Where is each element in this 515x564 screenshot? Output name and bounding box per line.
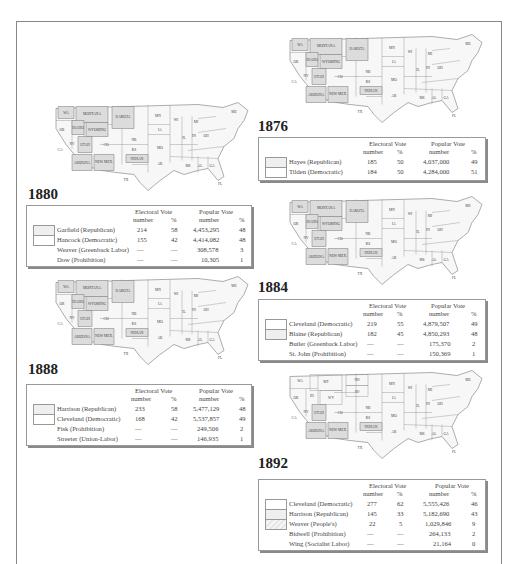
svg-text:MONTANA: MONTANA — [317, 44, 335, 48]
ev-number-header: number — [131, 395, 151, 402]
svg-text:IA: IA — [392, 222, 396, 226]
svg-text:NV: NV — [303, 74, 309, 78]
svg-text:AR: AR — [158, 162, 164, 166]
svg-text:NV: NV — [69, 316, 75, 320]
map-1888: WAMONTANADAKOTA IDAHOWYOMINGUTAH ARIZONA… — [48, 270, 253, 375]
svg-text:MS: MS — [419, 96, 424, 100]
svg-text:INDIAN: INDIAN — [365, 425, 378, 429]
svg-text:FL: FL — [218, 356, 222, 360]
svg-text:WA: WA — [63, 285, 69, 289]
svg-text:FL: FL — [452, 450, 456, 454]
svg-text:IN: IN — [192, 134, 196, 138]
svg-text:AL: AL — [432, 258, 437, 262]
svg-text:AR: AR — [392, 430, 398, 434]
svg-text:OR: OR — [60, 302, 66, 306]
ev-percent-header: % — [397, 148, 403, 155]
popular-vote-header: Popular Vote — [199, 208, 233, 215]
svg-text:IN: IN — [426, 66, 430, 70]
svg-text:WI: WI — [408, 50, 413, 54]
svg-text:IL: IL — [182, 310, 185, 314]
svg-text:OR: OR — [294, 222, 300, 226]
svg-text:MO: MO — [391, 240, 397, 244]
results-table-1876: Electoral Vote Popular Vote number % num… — [258, 137, 486, 181]
svg-text:IDAHO: IDAHO — [306, 58, 318, 62]
svg-text:FL: FL — [452, 276, 456, 280]
year-label-1892: 1892 — [258, 455, 288, 472]
table-row: Weaver (Greenback Labor) — — 308,578 3 — [27, 245, 251, 255]
table-row: Hayes (Republican) 185 50 4,037,000 49 — [259, 157, 485, 167]
year-label-1876: 1876 — [258, 118, 288, 135]
svg-text:IDAHO: IDAHO — [306, 220, 318, 224]
svg-text:ME: ME — [465, 42, 471, 46]
results-table-1880: Electoral Vote Popular Vote number % num… — [26, 205, 252, 267]
svg-text:NEW MEX.: NEW MEX. — [329, 92, 347, 96]
svg-text:UTAH: UTAH — [80, 317, 90, 321]
svg-text:NV: NV — [303, 410, 309, 414]
svg-text:IA: IA — [392, 396, 396, 400]
results-table-1892: Electoral Vote Popular Vote number % num… — [258, 479, 486, 551]
table-row: Weaver (People's) 22 5 1,029,846 9 — [259, 519, 485, 529]
svg-text:INDIAN: INDIAN — [365, 89, 378, 93]
svg-text:MONTANA: MONTANA — [317, 206, 335, 210]
pv-number-header: number — [429, 310, 449, 317]
svg-text:WI: WI — [408, 386, 413, 390]
ev-number-header: number — [363, 310, 383, 317]
map-1880: WAMONTANADAKOTA IDAHOWYOMINGUTAH ARIZONA… — [48, 96, 253, 201]
popular-vote-header: Popular Vote — [431, 140, 465, 147]
svg-text:IA: IA — [158, 302, 162, 306]
svg-text:IN: IN — [426, 402, 430, 406]
svg-text:AR: AR — [392, 94, 398, 98]
svg-text:WYOMING: WYOMING — [322, 222, 341, 226]
pv-percent-header: % — [471, 310, 477, 317]
year-label-1880: 1880 — [28, 186, 58, 203]
ev-number-header: number — [363, 148, 383, 155]
svg-text:MO: MO — [391, 78, 397, 82]
svg-text:NB: NB — [366, 232, 372, 236]
table-row: St. John (Prohibition) — — 150,369 1 — [259, 349, 485, 359]
pv-number-header: number — [199, 395, 219, 402]
svg-text:MO: MO — [157, 146, 163, 150]
svg-text:GA: GA — [443, 432, 449, 436]
svg-text:NV: NV — [303, 236, 309, 240]
svg-text:OR: OR — [60, 128, 66, 132]
pv-percent-header: % — [239, 216, 245, 223]
ev-number-header: number — [133, 216, 153, 223]
svg-text:IA: IA — [392, 60, 396, 64]
table-row: Cleveland (Democratic) 277 62 5,555,426 … — [259, 499, 485, 509]
svg-text:IN: IN — [426, 228, 430, 232]
map-1884: WAMONTANADAKOTA IDAHOWYOMINGUTAH ARIZONA… — [282, 190, 487, 295]
pv-percent-header: % — [471, 490, 477, 497]
svg-text:MN: MN — [389, 208, 395, 212]
svg-text:MO: MO — [157, 320, 163, 324]
svg-text:WI: WI — [408, 212, 413, 216]
year-label-1888: 1888 — [28, 361, 58, 378]
table-row: Wing (Socialist Labor) — — 21,164 0 — [259, 539, 485, 549]
pv-percent-header: % — [239, 395, 245, 402]
electoral-vote-header: Electoral Vote — [369, 482, 406, 489]
results-table-1888: Electoral Vote Popular Vote number % num… — [26, 384, 252, 446]
svg-text:IL: IL — [416, 230, 419, 234]
svg-text:TX: TX — [358, 272, 363, 276]
svg-text:CA: CA — [58, 322, 63, 326]
svg-text:FL: FL — [452, 114, 456, 118]
popular-vote-header: Popular Vote — [199, 387, 233, 394]
svg-text:IL: IL — [416, 68, 419, 72]
table-row: Hancock (Democratic) 155 42 4,414,082 48 — [27, 235, 251, 245]
svg-text:NEW MEX.: NEW MEX. — [95, 160, 113, 164]
svg-text:DAKOTA: DAKOTA — [116, 115, 131, 119]
svg-text:WI: WI — [174, 118, 179, 122]
svg-text:IDAHO: IDAHO — [72, 300, 84, 304]
svg-text:WYOMING: WYOMING — [322, 60, 341, 64]
svg-text:MN: MN — [155, 288, 161, 292]
svg-text:ARIZONA: ARIZONA — [74, 335, 91, 339]
svg-text:IL: IL — [416, 404, 419, 408]
electoral-vote-header: Electoral Vote — [369, 302, 406, 309]
table-row: Fisk (Prohibition) — — 249,506 2 — [27, 424, 251, 434]
svg-text:GA: GA — [443, 96, 449, 100]
table-row: Streeter (Union-Labor) — — 146,935 1 — [27, 434, 251, 444]
svg-text:UTAH: UTAH — [314, 75, 324, 79]
svg-text:DAKOTA: DAKOTA — [116, 289, 131, 293]
svg-text:ND: ND — [354, 378, 360, 382]
svg-text:MS: MS — [419, 258, 424, 262]
svg-text:AR: AR — [158, 336, 164, 340]
